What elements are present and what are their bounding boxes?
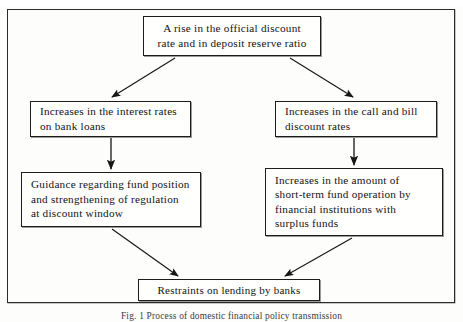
scan-edge <box>0 0 463 6</box>
node-interest-rates-bank-loans: Increases in the interest rates on bank … <box>30 101 191 137</box>
figure-page: A rise in the official discount rate and… <box>0 0 463 322</box>
node-guidance-fund-position: Guidance regarding fund position and str… <box>21 172 201 227</box>
node-text-line: short-term fund operation by <box>275 187 433 202</box>
node-text-line: Restraints on lending by banks <box>148 281 310 299</box>
node-short-term-fund-operation: Increases in the amount of short-term fu… <box>265 168 443 236</box>
node-text-line: financial institutions with <box>275 202 433 217</box>
node-text-line: Increases in the amount of <box>275 173 433 188</box>
node-text-line: and strengthening of regulation <box>31 192 191 207</box>
node-text-line: A rise in the official discount <box>153 21 311 36</box>
node-restraints-on-lending: Restraints on lending by banks <box>138 279 320 301</box>
node-text-line: Increases in the call and bill <box>285 104 427 119</box>
node-text-line: at discount window <box>31 206 191 221</box>
node-text-line: Guidance regarding fund position <box>31 177 191 192</box>
node-text-line: on bank loans <box>40 119 181 134</box>
node-text-line: surplus funds <box>275 216 433 231</box>
figure-caption: Fig. 1 Process of domestic financial pol… <box>0 311 463 322</box>
node-text-line: discount rates <box>285 119 427 134</box>
node-call-and-bill-discount-rates: Increases in the call and bill discount … <box>275 101 437 137</box>
node-official-discount-rate-rise: A rise in the official discount rate and… <box>143 16 321 56</box>
node-text-line: Increases in the interest rates <box>40 104 181 119</box>
node-text-line: rate and in deposit reserve ratio <box>153 36 311 51</box>
